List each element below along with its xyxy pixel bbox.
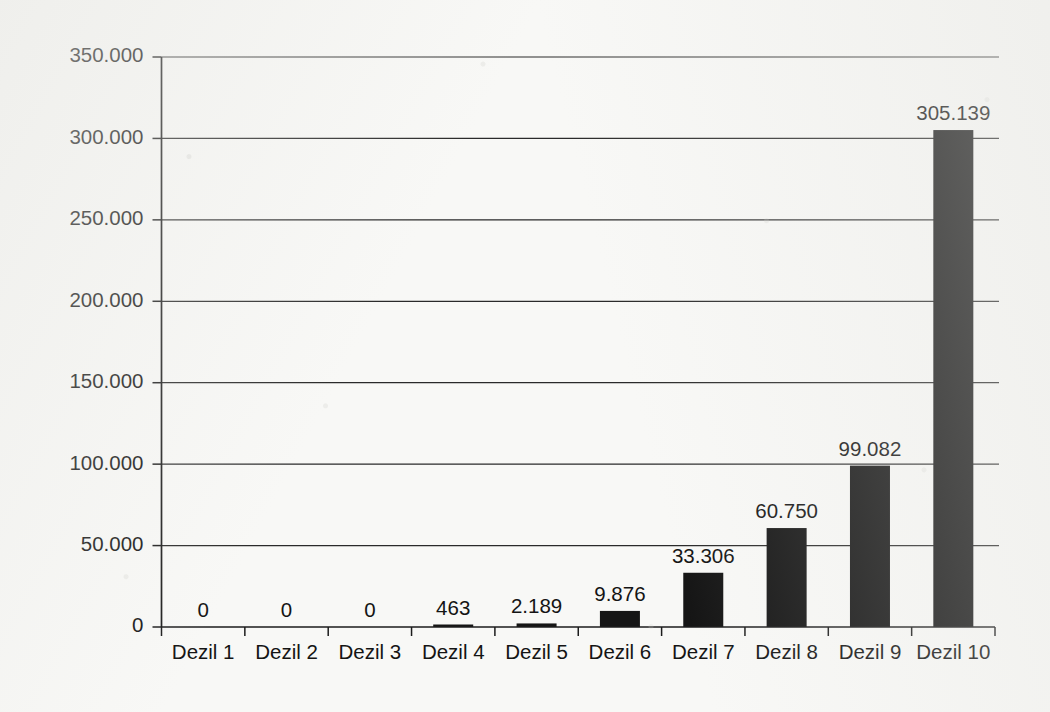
- y-axis-tick-label: 50.000: [81, 532, 144, 555]
- x-axis-tick-label: Dezil 9: [839, 640, 902, 663]
- x-axis-tick-labels: Dezil 1Dezil 2Dezil 3Dezil 4Dezil 5Dezil…: [172, 640, 991, 663]
- bar-value-label: 60.750: [755, 499, 818, 522]
- y-axis-tick-label: 150.000: [69, 369, 143, 392]
- x-axis-tick-label: Dezil 3: [339, 640, 402, 663]
- y-axis-tick-labels: 050.000100.000150.000200.000250.000300.0…: [69, 43, 143, 636]
- x-axis-ticks: [162, 627, 996, 636]
- bar-value-label: 33.306: [672, 544, 735, 567]
- y-axis-tick-label: 0: [132, 613, 143, 636]
- bar-value-label: 2.189: [511, 594, 562, 617]
- bar-chart: 050.000100.000150.000200.000250.000300.0…: [0, 0, 1050, 712]
- bar-value-label: 99.082: [839, 437, 902, 460]
- bar-value-label: 9.876: [594, 582, 645, 605]
- bar-value-label: 0: [281, 598, 292, 621]
- y-axis-tick-label: 200.000: [69, 288, 143, 311]
- chart-canvas: 050.000100.000150.000200.000250.000300.0…: [0, 0, 1050, 712]
- bar-value-label: 305.139: [916, 101, 990, 124]
- bar: [683, 573, 723, 627]
- x-axis-tick-label: Dezil 2: [255, 640, 318, 663]
- x-axis-tick-label: Dezil 8: [755, 640, 818, 663]
- x-axis-tick-label: Dezil 1: [172, 640, 235, 663]
- bar-value-label: 0: [364, 598, 375, 621]
- x-axis-tick-label: Dezil 10: [916, 640, 990, 663]
- y-axis-tick-label: 100.000: [69, 451, 143, 474]
- bar-value-label: 0: [197, 598, 208, 621]
- y-axis-tick-label: 250.000: [69, 206, 143, 229]
- bar: [600, 611, 640, 627]
- bar: [767, 528, 807, 627]
- y-axis-ticks: [153, 57, 162, 627]
- bar-value-label: 463: [436, 596, 470, 619]
- y-axis-tick-label: 350.000: [69, 43, 143, 66]
- x-axis-tick-label: Dezil 6: [589, 640, 652, 663]
- bar: [850, 466, 890, 627]
- bar: [933, 130, 973, 627]
- y-axis-tick-label: 300.000: [69, 125, 143, 148]
- x-axis-tick-label: Dezil 4: [422, 640, 485, 663]
- x-axis-tick-label: Dezil 5: [505, 640, 568, 663]
- x-axis-tick-label: Dezil 7: [672, 640, 735, 663]
